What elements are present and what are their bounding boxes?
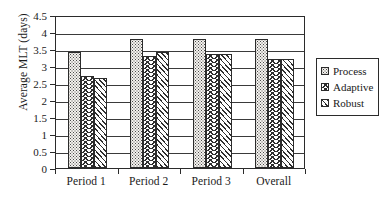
bar [81,76,94,168]
bar-group [181,17,244,168]
y-axis-tick-label: 0.5 [33,147,47,158]
bar [281,59,294,168]
bar [255,39,268,168]
y-axis-tick-label: 2.5 [33,79,47,90]
legend-item[interactable]: Process [321,63,373,79]
y-axis: 00.511.522.533.544.5 [0,16,55,169]
y-axis-tick-label: 1 [42,130,48,141]
legend-swatch-icon [321,83,329,91]
bar-groups [56,17,304,168]
bar [68,52,81,168]
chart-legend: ProcessAdaptiveRobust [316,58,379,116]
bar [219,54,232,168]
x-axis-tick [180,169,181,174]
legend-swatch-icon [321,67,329,75]
bar [206,54,219,168]
plot-area [55,16,305,169]
bar [193,39,206,168]
y-axis-tick-label: 3 [42,62,48,73]
legend-swatch-icon [321,99,329,107]
x-axis-tick [55,169,56,174]
legend-item[interactable]: Robust [321,95,373,111]
y-axis-tick-label: 4.5 [33,11,47,22]
bar [268,59,281,168]
bar [156,52,169,168]
legend-label: Adaptive [333,82,373,93]
x-axis-tick-label: Period 1 [67,175,106,187]
bar-chart-figure: Average MLT (days) 00.511.522.533.544.5 … [0,0,387,197]
bar-group [119,17,182,168]
x-axis-tick-label: Period 3 [192,175,231,187]
bar-group [56,17,119,168]
x-axis-tick [243,169,244,174]
bar [130,39,143,168]
legend-label: Robust [333,98,364,109]
y-axis-tick-label: 2 [42,96,48,107]
bar [94,78,107,168]
y-axis-tick-label: 4 [42,28,48,39]
y-axis-tick-label: 3.5 [33,45,47,56]
x-axis-tick [118,169,119,174]
y-axis-tick-label: 1.5 [33,113,47,124]
x-axis-tick-label: Overall [256,175,291,187]
x-axis: Period 1Period 2Period 3Overall [55,169,305,197]
y-axis-tick-label: 0 [42,164,48,175]
bar-group [244,17,307,168]
legend-item[interactable]: Adaptive [321,79,373,95]
x-axis-tick-label: Period 2 [129,175,168,187]
legend-label: Process [333,66,367,77]
bar [143,56,156,168]
x-axis-tick [305,169,306,174]
